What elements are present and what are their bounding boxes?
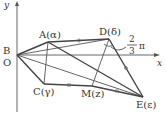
point-label-B: B [3, 45, 10, 56]
x-axis-label: x [157, 58, 162, 68]
point-label-M: M(z) [81, 88, 104, 99]
origin-label: O [3, 57, 11, 68]
point-label-D: D(δ) [99, 26, 121, 37]
angle-denominator: 3 [129, 46, 135, 56]
angle-numerator: 2 [129, 34, 135, 44]
y-axis-arrow-icon [15, 1, 19, 6]
segment-AC [44, 42, 48, 84]
y-axis-label: y [3, 0, 10, 10]
point-label-E: E(ε) [136, 99, 156, 110]
geometry-diagram: y x B O A(α) D(δ) C(γ) M(z) E(ε) 2 3 π [0, 0, 166, 113]
point-label-A: A(α) [38, 29, 61, 40]
x-axis-arrow-icon [154, 53, 160, 57]
angle-pi: π [139, 41, 145, 51]
segment-DE [109, 39, 143, 97]
point-label-C: C(γ) [33, 86, 55, 97]
segment-BA [17, 42, 48, 55]
